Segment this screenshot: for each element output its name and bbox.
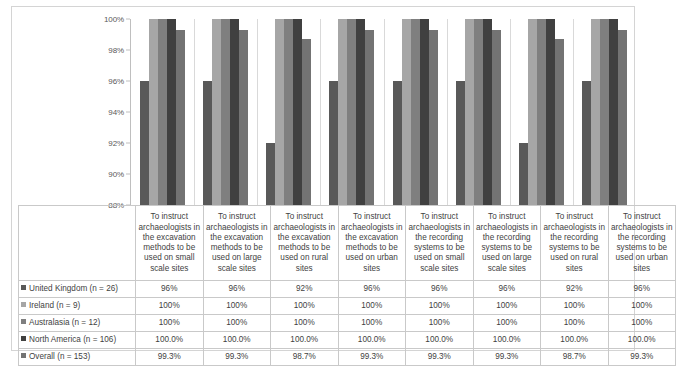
- legend-entry[interactable]: North America (n = 106): [19, 332, 136, 349]
- table-cell-value: 96%: [338, 281, 406, 298]
- bar-group: [510, 19, 573, 205]
- bar: [239, 30, 248, 205]
- legend-swatch-icon: [21, 285, 26, 290]
- legend-series-name: Australasia (n = 12): [29, 318, 100, 327]
- table-cell-value: 99.3%: [338, 349, 406, 366]
- table-cell-value: 92%: [271, 281, 339, 298]
- bar: [212, 19, 221, 205]
- category-label: To instruct archaeologists in the excava…: [271, 206, 339, 281]
- y-axis-tick-label: 92%: [108, 139, 124, 148]
- bar: [203, 81, 212, 205]
- table-row: North America (n = 106)100.0%100.0%100.0…: [19, 332, 676, 349]
- table-cell-value: 100.0%: [338, 332, 406, 349]
- table-cell-value: 100%: [608, 315, 676, 332]
- bar: [465, 19, 474, 205]
- bar: [230, 19, 239, 205]
- category-label: To instruct archaeologists in the record…: [608, 206, 676, 281]
- table-cell-value: 100%: [271, 315, 339, 332]
- bar: [284, 19, 293, 205]
- y-axis-tick-label: 96%: [108, 77, 124, 86]
- table-cell-value: 100%: [473, 315, 541, 332]
- table-cell-value: 100%: [338, 298, 406, 315]
- table-cell-value: 100%: [473, 298, 541, 315]
- table-cell-value: 98.7%: [541, 349, 609, 366]
- legend-series-name: Overall (n = 153): [29, 352, 90, 361]
- bar: [483, 19, 492, 205]
- bar: [474, 19, 483, 205]
- table-corner-cell: [19, 206, 136, 281]
- group-separator: [384, 19, 385, 205]
- table-cell-value: 100%: [541, 298, 609, 315]
- table-row: United Kingdom (n = 26)96%96%92%96%96%96…: [19, 281, 676, 298]
- table-cell-value: 100.0%: [608, 332, 676, 349]
- table-cell-value: 99.3%: [608, 349, 676, 366]
- table-row: Ireland (n = 9)100%100%100%100%100%100%1…: [19, 298, 676, 315]
- table-cell-value: 99.3%: [406, 349, 474, 366]
- group-separator: [510, 19, 511, 205]
- group-separator: [257, 19, 258, 205]
- bar: [293, 19, 302, 205]
- table-cell-value: 96%: [608, 281, 676, 298]
- bar-group: [194, 19, 257, 205]
- category-header-row: To instruct archaeologists in the excava…: [19, 206, 676, 281]
- legend-entry[interactable]: Ireland (n = 9): [19, 298, 136, 315]
- bar: [456, 81, 465, 205]
- table-cell-value: 100%: [406, 298, 474, 315]
- table-cell-value: 96%: [136, 281, 204, 298]
- legend-entry[interactable]: Australasia (n = 12): [19, 315, 136, 332]
- bar: [429, 30, 438, 205]
- table-cell-value: 100%: [136, 315, 204, 332]
- bar: [420, 19, 429, 205]
- bar: [329, 81, 338, 205]
- bar: [221, 19, 230, 205]
- bar-group: [131, 19, 194, 205]
- bar: [609, 19, 618, 205]
- legend-series-name: United Kingdom (n = 26): [29, 284, 118, 293]
- bar: [149, 19, 158, 205]
- bar: [140, 81, 149, 205]
- table-cell-value: 100%: [608, 298, 676, 315]
- bar: [546, 19, 555, 205]
- category-label: To instruct archaeologists in the excava…: [338, 206, 406, 281]
- bar-group: [257, 19, 320, 205]
- table-cell-value: 100%: [271, 298, 339, 315]
- plot-area: [130, 19, 635, 205]
- bar: [338, 19, 347, 205]
- table-cell-value: 100%: [338, 315, 406, 332]
- bar: [356, 19, 365, 205]
- table-cell-value: 99.3%: [473, 349, 541, 366]
- table-cell-value: 98.7%: [271, 349, 339, 366]
- bar-group: [384, 19, 447, 205]
- table-cell-value: 100.0%: [271, 332, 339, 349]
- table-cell-value: 96%: [473, 281, 541, 298]
- plot-region: 100%98%96%94%92%90%88%: [12, 7, 636, 207]
- legend-swatch-icon: [21, 353, 26, 358]
- table-cell-value: 100.0%: [406, 332, 474, 349]
- legend-entry[interactable]: Overall (n = 153): [19, 349, 136, 366]
- bar: [519, 143, 528, 205]
- table-cell-value: 100.0%: [136, 332, 204, 349]
- y-axis-tick-label: 98%: [108, 46, 124, 55]
- bar: [528, 19, 537, 205]
- legend-swatch-icon: [21, 302, 26, 307]
- y-axis-tick-label: 90%: [108, 170, 124, 179]
- bar: [600, 19, 609, 205]
- category-label: To instruct archaeologists in the record…: [473, 206, 541, 281]
- legend-swatch-icon: [21, 319, 26, 324]
- group-separator: [447, 19, 448, 205]
- bar: [266, 143, 275, 205]
- bar: [411, 19, 420, 205]
- bar: [302, 39, 311, 205]
- category-label: To instruct archaeologists in the record…: [406, 206, 474, 281]
- y-axis-tick-label: 100%: [104, 15, 124, 24]
- legend-entry[interactable]: United Kingdom (n = 26): [19, 281, 136, 298]
- bar: [275, 19, 284, 205]
- chart-container: 100%98%96%94%92%90%88% To instruct archa…: [11, 6, 635, 351]
- bar: [618, 30, 627, 205]
- data-table-body: To instruct archaeologists in the excava…: [19, 206, 676, 366]
- table-cell-value: 100.0%: [203, 332, 271, 349]
- bar: [402, 19, 411, 205]
- bar-group: [320, 19, 383, 205]
- bar: [347, 19, 356, 205]
- table-cell-value: 99.3%: [136, 349, 204, 366]
